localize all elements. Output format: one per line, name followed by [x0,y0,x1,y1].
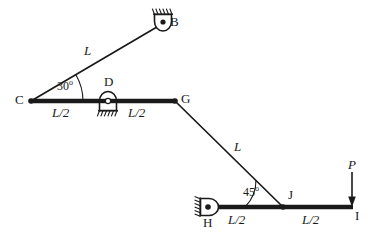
node-label-i: I [355,209,359,222]
angle-arc-c [76,75,83,101]
angle-label-30: 30o [57,79,73,92]
length-label-cb: L [84,44,91,57]
angle-label-30-value: 30 [57,79,69,93]
node-label-h: H [203,216,212,229]
length-label-hj: L/2 [228,213,245,226]
support-h-pin-hole [205,204,211,210]
load-label-p: P [348,158,356,171]
degree-symbol-icon-2: o [255,184,259,193]
member-gj [175,101,283,207]
support-d-hatching [97,111,117,117]
angle-label-45-value: 45 [243,185,255,199]
node-label-d: D [104,75,113,88]
support-h-pin [195,197,219,217]
support-h-hatching [195,197,201,217]
support-d-pin-hole [105,98,110,103]
member-cb [31,24,162,101]
node-marker-g [172,98,178,104]
support-d-pin [97,92,118,117]
angle-label-45: 45o [243,185,259,198]
length-label-cd: L/2 [52,106,69,119]
frame-drawing-canvas [0,0,376,245]
node-label-b: B [170,15,179,28]
node-label-j: J [288,188,293,201]
node-label-c: C [15,93,24,106]
length-label-dg: L/2 [128,106,145,119]
structural-diagram: B C D G H J I L L/2 L/2 L L/2 L/2 30o 45… [0,0,376,245]
node-label-g: G [181,92,190,105]
length-label-gj: L [234,140,241,153]
node-marker-j [280,204,286,210]
length-label-ji: L/2 [302,213,319,226]
degree-symbol-icon: o [69,78,73,87]
support-b-pin-hole [160,19,165,24]
node-marker-c [28,98,34,104]
members-group [31,24,353,207]
load-p-arrow [348,172,356,207]
